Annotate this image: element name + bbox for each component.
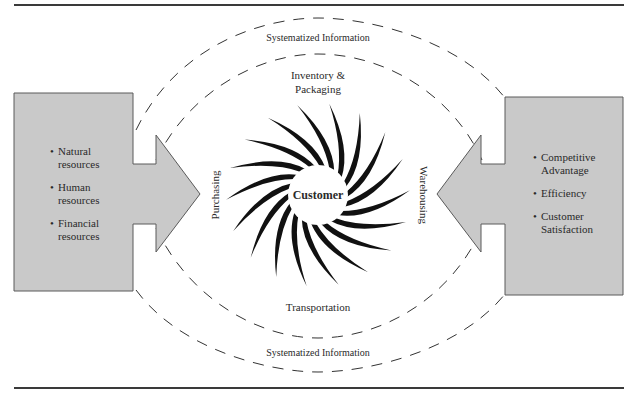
left-resource-list: Naturalresources Humanresources Financia…	[50, 145, 100, 253]
sunburst-spike	[275, 202, 293, 277]
sunburst-spike	[311, 222, 369, 272]
inner-arc-bottom	[156, 228, 482, 338]
left-resource-arrow	[14, 93, 200, 291]
transportation-label: Transportation	[286, 300, 350, 314]
warehousing-label: Warehousing	[417, 166, 431, 224]
sunburst-spike	[268, 118, 326, 168]
right-outcome-list: CompetitiveAdvantage Efficiency Customer…	[533, 151, 595, 246]
list-item-human-resources: Humanresources	[50, 181, 100, 207]
bottom-systematized-information-label: Systematized Information	[266, 346, 370, 360]
list-item-efficiency: Efficiency	[533, 187, 595, 200]
purchasing-label: Purchasing	[208, 171, 222, 220]
list-item-financial-resources: Financialresources	[50, 217, 100, 243]
customer-label: Customer	[293, 188, 344, 202]
sunburst-spike	[230, 161, 306, 172]
list-item-competitive-advantage: CompetitiveAdvantage	[533, 151, 595, 177]
list-item-customer-satisfaction: CustomerSatisfaction	[533, 210, 595, 236]
sunburst-spike	[330, 218, 406, 229]
top-systematized-information-label: Systematized Information	[266, 31, 370, 45]
inventory-packaging-label: Inventory &Packaging	[291, 68, 345, 96]
sunburst-spike	[343, 113, 361, 188]
list-item-natural-resources: Naturalresources	[50, 145, 100, 171]
